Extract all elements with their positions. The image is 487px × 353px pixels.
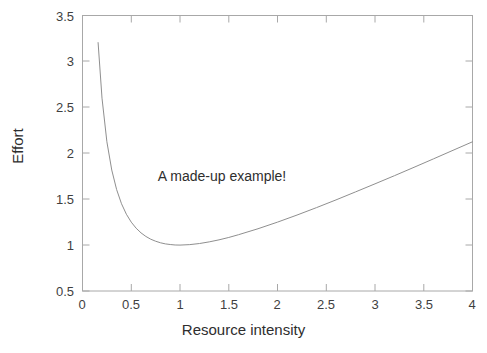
xtick-label: 3 (371, 297, 378, 312)
y-axis-label-wrapper: Effort (8, 106, 26, 186)
y-axis-label: Effort (9, 128, 26, 164)
ytick-label: 0.5 (38, 284, 74, 299)
axes-frame (83, 16, 473, 292)
chart-annotation: A made-up example! (158, 168, 286, 184)
ytick-label: 2 (38, 146, 74, 161)
xtick-label: 1 (176, 297, 183, 312)
ytick-label: 1 (38, 238, 74, 253)
xtick-label: 1.5 (220, 297, 238, 312)
xtick-label: 2 (273, 297, 280, 312)
ytick-label: 1.5 (38, 192, 74, 207)
xtick-label: 4 (468, 297, 475, 312)
y-axis-ticks (83, 16, 473, 292)
xtick-label: 0 (78, 297, 85, 312)
ytick-label: 3 (38, 54, 74, 69)
chart-figure: 0.5 1 1.5 2 2.5 3 3.5 0 0.5 1 1.5 2 2.5 … (0, 0, 487, 353)
xtick-label: 2.5 (317, 297, 335, 312)
data-series-line (98, 43, 472, 245)
ytick-label: 3.5 (38, 9, 74, 24)
ytick-label: 2.5 (38, 100, 74, 115)
xtick-label: 0.5 (122, 297, 140, 312)
x-axis-label: Resource intensity (0, 321, 487, 338)
x-axis-ticks (83, 16, 473, 292)
xtick-label: 3.5 (415, 297, 433, 312)
